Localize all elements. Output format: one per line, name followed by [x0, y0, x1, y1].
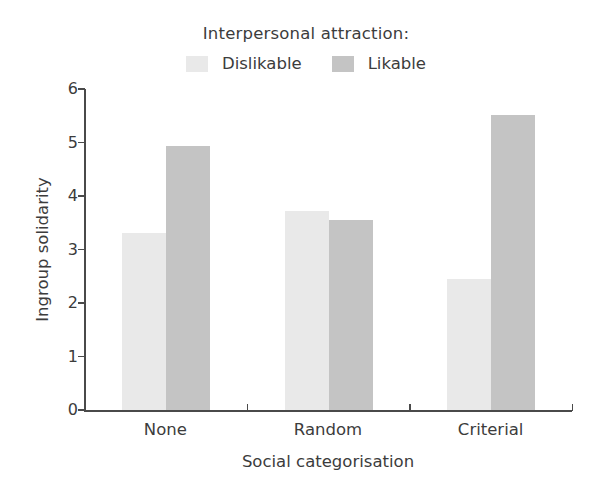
bars-layer: [0, 0, 612, 411]
bar-random-likable: [329, 220, 373, 410]
bar-none-likable: [166, 146, 210, 410]
x-axis-category-label: Criterial: [421, 420, 561, 439]
x-axis-category-label: None: [95, 420, 235, 439]
bar-criterial-likable: [491, 115, 535, 410]
y-axis-title: Ingroup solidarity: [33, 170, 52, 330]
bar-chart-figure: Interpersonal attraction: Dislikable Lik…: [0, 0, 612, 495]
bar-none-dislikable: [122, 233, 166, 410]
bar-criterial-dislikable: [447, 279, 491, 410]
x-axis-category-label: Random: [258, 420, 398, 439]
x-axis-title: Social categorisation: [84, 452, 572, 471]
bar-random-dislikable: [285, 211, 329, 410]
plot-area: 0123456 NoneRandomCriterial Ingroup soli…: [0, 0, 612, 495]
